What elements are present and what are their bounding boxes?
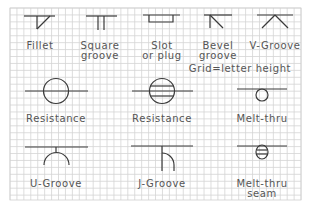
label-resistance-seam: Resistance <box>132 114 192 124</box>
welding-symbols-diagram <box>0 0 309 207</box>
label-fillet: Fillet <box>26 41 53 51</box>
label-u-groove: U-Groove <box>30 179 82 189</box>
label-melt-thru: Melt-thru <box>236 114 287 124</box>
label-bevel-groove: Bevelgroove <box>199 41 237 61</box>
slot-plug-symbol-icon <box>143 15 180 22</box>
label-v-groove: V-Groove <box>250 41 301 51</box>
label-resistance-spot: Resistance <box>26 114 86 124</box>
grid <box>10 8 301 200</box>
grid-note: Grid=letter height <box>189 64 291 74</box>
u-groove-symbol-icon <box>25 147 88 165</box>
label-melt-thru-seam: Melt-thruseam <box>236 179 287 199</box>
label-slot-or-plug: Slotor plug <box>142 41 181 61</box>
label-j-groove: J-Groove <box>138 179 185 189</box>
label-square-groove: Squaregroove <box>81 41 120 61</box>
fillet-symbol-icon <box>24 16 55 29</box>
melt-thru-seam-symbol-icon <box>237 145 287 159</box>
resistance-spot-symbol-icon <box>25 79 88 104</box>
square-groove-symbol-icon <box>86 16 117 30</box>
